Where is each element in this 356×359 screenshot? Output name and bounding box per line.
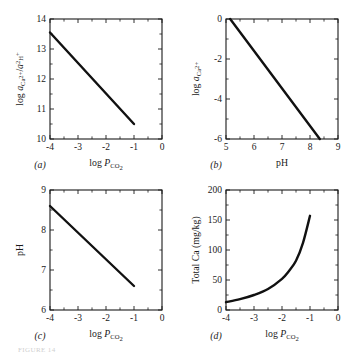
panel-b-yticklabel: -4 (214, 94, 222, 104)
panel-b-panel-label: (b) (210, 159, 221, 171)
panel-a-yticklabel: 10 (37, 134, 47, 144)
panel-a-yticklabel: 11 (37, 104, 46, 114)
panel-c-xticklabel: 0 (160, 313, 165, 323)
panel-b-xticklabel: 9 (336, 142, 341, 152)
panel-b-xticklabel: 5 (224, 142, 229, 152)
panel-d-xticklabel: 0 (336, 313, 341, 323)
figure-container: -4-3-2-101011121314log PCO2log aCa2+/a2H… (0, 0, 356, 359)
panel-d-xticklabel: -1 (306, 313, 314, 323)
panel-c-panel-label: (c) (35, 330, 46, 342)
panel-c-yticklabel: 8 (41, 225, 46, 235)
panel-d-ylabel: Total Ca (mg/kg) (190, 216, 202, 283)
panel-a-xticklabel: -3 (74, 142, 82, 152)
panel-c-xticklabel: -2 (102, 313, 110, 323)
panel-a-yticklabel: 13 (37, 44, 47, 54)
panel-d-yticklabel: 0 (217, 305, 222, 315)
panel-a-panel-label: (a) (34, 159, 45, 171)
panel-d-yticklabel: 150 (208, 215, 223, 225)
panel-d-xticklabel: -4 (222, 313, 230, 323)
panel-c-xticklabel: -1 (130, 313, 138, 323)
panel-b-xticklabel: 6 (252, 142, 257, 152)
panel-b-xticklabel: 8 (308, 142, 313, 152)
panel-a-xticklabel: -4 (46, 142, 54, 152)
panel-c-xticklabel: -4 (46, 313, 54, 323)
panel-d-yticklabel: 200 (208, 185, 223, 195)
panel-b-xticklabel: 7 (280, 142, 285, 152)
panel-a-xticklabel: -2 (102, 142, 110, 152)
panel-d-panel-label: (d) (210, 330, 221, 342)
panel-a-yticklabel: 12 (37, 74, 47, 84)
figure-background (0, 0, 356, 359)
panel-a-xticklabel: 0 (160, 142, 165, 152)
panel-d-yticklabel: 100 (208, 245, 223, 255)
panel-b-xlabel: pH (276, 157, 288, 168)
panel-c-yticklabel: 7 (41, 265, 46, 275)
panel-b-yticklabel: -6 (214, 134, 222, 144)
panel-a-yticklabel: 14 (37, 14, 47, 24)
panel-b-yticklabel: 0 (217, 14, 222, 24)
panel-a-xticklabel: -1 (130, 142, 138, 152)
panel-d-yticklabel: 50 (213, 275, 223, 285)
panel-d-xticklabel: -2 (278, 313, 286, 323)
panel-b-yticklabel: -2 (214, 54, 222, 64)
partial-caption: FIGURE 14 (18, 346, 148, 355)
panel-d-xticklabel: -3 (250, 313, 258, 323)
panel-c-xticklabel: -3 (74, 313, 82, 323)
panel-c-yticklabel: 9 (41, 185, 46, 195)
four-panel-figure: -4-3-2-101011121314log PCO2log aCa2+/a2H… (0, 0, 356, 359)
panel-c-ylabel: pH (14, 244, 25, 256)
panel-c-yticklabel: 6 (41, 305, 46, 315)
